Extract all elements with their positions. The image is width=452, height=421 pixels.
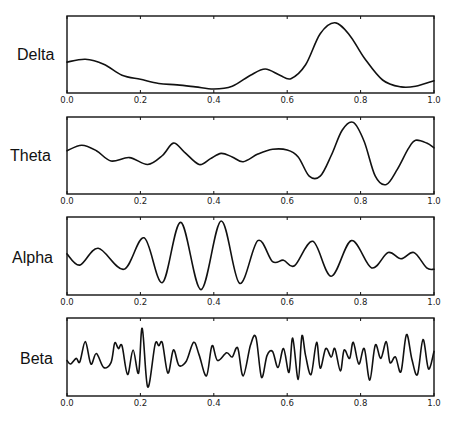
panel-beta: Beta 0.00.20.40.60.81.0 <box>20 318 441 408</box>
x-tick-label: 1.0 <box>427 95 441 105</box>
band-label-theta: Theta <box>10 147 51 164</box>
plot-frame <box>67 16 434 93</box>
x-tick-label: 1.0 <box>427 398 441 408</box>
plot-frame <box>67 217 434 295</box>
x-tick-label: 0.6 <box>280 196 294 206</box>
x-tick-label: 0.0 <box>60 95 74 105</box>
x-ticks <box>67 16 434 93</box>
x-tick-label: 0.4 <box>207 95 221 105</box>
x-tick-label: 0.8 <box>354 297 368 307</box>
alpha-waveform <box>67 221 434 290</box>
x-tick-label: 0.0 <box>60 398 74 408</box>
x-tick-label: 0.6 <box>280 95 294 105</box>
x-tick-label: 0.0 <box>60 297 74 307</box>
band-label-delta: Delta <box>17 46 54 63</box>
band-label-beta: Beta <box>20 350 53 367</box>
x-tick-label: 0.0 <box>60 196 74 206</box>
x-tick-label: 0.2 <box>134 95 148 105</box>
x-tick-label: 0.8 <box>354 196 368 206</box>
x-tick-labels: 0.00.20.40.60.81.0 <box>60 297 441 307</box>
beta-waveform <box>67 328 434 387</box>
band-label-alpha: Alpha <box>12 249 53 266</box>
x-tick-labels: 0.00.20.40.60.81.0 <box>60 398 441 408</box>
x-tick-label: 0.2 <box>134 297 148 307</box>
x-tick-labels: 0.00.20.40.60.81.0 <box>60 95 441 105</box>
panel-alpha: Alpha 0.00.20.40.60.81.0 <box>12 217 441 307</box>
x-tick-label: 0.4 <box>207 196 221 206</box>
x-tick-label: 0.6 <box>280 398 294 408</box>
x-tick-label: 0.8 <box>354 398 368 408</box>
x-tick-label: 1.0 <box>427 297 441 307</box>
delta-waveform <box>67 23 434 89</box>
x-tick-label: 0.8 <box>354 95 368 105</box>
x-tick-label: 0.6 <box>280 297 294 307</box>
eeg-bands-chart: Delta 0.00.20.40.60.81.0 Theta 0.00.20.4… <box>0 0 452 421</box>
x-tick-labels: 0.00.20.40.60.81.0 <box>60 196 441 206</box>
x-tick-label: 0.4 <box>207 297 221 307</box>
x-tick-label: 1.0 <box>427 196 441 206</box>
panel-theta: Theta 0.00.20.40.60.81.0 <box>10 117 441 206</box>
x-ticks <box>67 217 434 295</box>
x-tick-label: 0.2 <box>134 398 148 408</box>
theta-waveform <box>67 122 434 185</box>
x-tick-label: 0.2 <box>134 196 148 206</box>
x-tick-label: 0.4 <box>207 398 221 408</box>
panel-delta: Delta 0.00.20.40.60.81.0 <box>17 16 441 105</box>
